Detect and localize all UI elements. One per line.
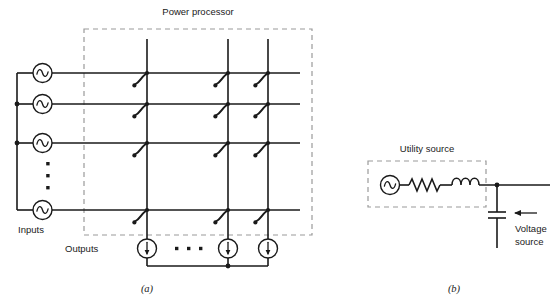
junction-dot: [15, 141, 20, 146]
circuit-diagram-svg: Power processor Inputs Outputs (a): [0, 0, 557, 304]
utility-source-label: Utility source: [400, 143, 454, 154]
current-source-icon: [219, 239, 238, 258]
outputs-label: Outputs: [65, 243, 99, 254]
resistor-icon: [409, 179, 440, 191]
ac-source-icon: [381, 176, 400, 195]
voltage-source-label-line2: source: [515, 236, 544, 247]
junction-dot: [226, 264, 231, 269]
input-vertical-ellipsis: [46, 162, 49, 189]
panel-b: Utility source Voltage source (b): [368, 143, 550, 295]
figure-root: Power processor Inputs Outputs (a): [0, 0, 557, 304]
ac-source-icon: [33, 95, 52, 114]
power-processor-boundary: [84, 29, 312, 235]
ac-source-icon: [33, 64, 52, 83]
inductor-icon: [452, 178, 479, 185]
voltage-source-label-line1: Voltage: [515, 223, 547, 234]
current-source-icon: [138, 239, 157, 258]
panel-a: Power processor Inputs Outputs (a): [15, 6, 312, 295]
ac-source-icon: [33, 201, 52, 220]
left-arrow-icon: [514, 210, 521, 216]
panel-a-caption: (a): [141, 283, 154, 295]
inputs-label: Inputs: [18, 224, 44, 235]
current-source-icon: [259, 239, 278, 258]
power-processor-label: Power processor: [162, 6, 233, 17]
panel-b-caption: (b): [448, 283, 461, 295]
ac-source-icon: [33, 134, 52, 153]
output-horizontal-ellipsis: [175, 247, 202, 250]
junction-dot: [15, 102, 20, 107]
